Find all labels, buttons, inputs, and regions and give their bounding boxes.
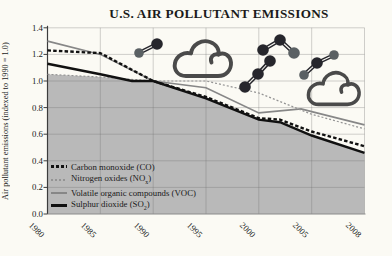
y-tick-label-0.0: 0.0 (22, 209, 43, 219)
molecule-icon-2 (239, 55, 276, 93)
legend-row-3: Sulphur dioxide (SO2) (51, 199, 196, 212)
molecule-icon-1 (134, 38, 163, 58)
cloud-icon-1 (175, 41, 231, 76)
legend-label-1: Nitrogen oxides (NOx) (71, 173, 151, 187)
legend-label-0: Carbon monoxide (CO) (71, 162, 155, 172)
legend-line-sample-1 (51, 179, 67, 181)
legend: Carbon monoxide (CO)Nitrogen oxides (NOx… (51, 160, 196, 212)
cloud-icon-2 (308, 73, 359, 105)
legend-label-3: Sulphur dioxide (SO2) (71, 199, 150, 213)
chart-figure: U.S. AIR POLLUTANT EMISSIONS Air polluta… (0, 0, 392, 256)
legend-row-1: Nitrogen oxides (NOx) (51, 173, 196, 186)
legend-row-0: Carbon monoxide (CO) (51, 160, 196, 173)
legend-line-sample-3 (51, 204, 67, 207)
legend-label-2: Volatile organic compounds (VOC) (71, 188, 196, 198)
y-tick-label-0.6: 0.6 (22, 129, 43, 139)
legend-row-2: Volatile organic compounds (VOC) (51, 186, 196, 199)
plot-area (0, 0, 392, 256)
legend-line-sample-2 (51, 192, 67, 194)
y-tick-label-1.4: 1.4 (22, 23, 43, 33)
y-tick-label-1.2: 1.2 (22, 49, 43, 59)
y-tick-label-1.0: 1.0 (22, 76, 43, 86)
y-tick-label-0.4: 0.4 (22, 156, 43, 166)
legend-line-sample-0 (51, 165, 67, 168)
y-tick-label-0.8: 0.8 (22, 103, 43, 113)
y-tick-label-0.2: 0.2 (22, 182, 43, 192)
molecule-icon-3 (257, 34, 300, 59)
